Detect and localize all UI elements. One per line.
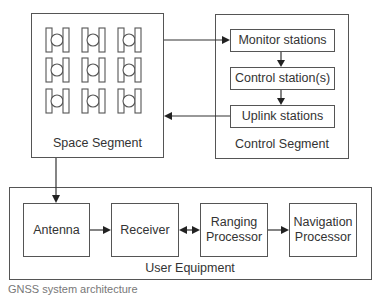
control-segment-label: Control Segment — [215, 137, 349, 151]
space-segment-label: Space Segment — [31, 136, 164, 150]
control-stations-box: Control station(s) — [230, 67, 335, 90]
receiver-box: Receiver — [111, 203, 179, 257]
monitor-stations-box: Monitor stations — [230, 29, 335, 52]
arrowhead-icon — [164, 112, 172, 120]
figure-caption: GNSS system architecture — [8, 283, 138, 295]
antenna-box: Antenna — [23, 203, 90, 257]
navigation-processor-box: Navigation Processor — [289, 203, 357, 257]
user-equipment-label: User Equipment — [130, 261, 250, 275]
uplink-stations-box: Uplink stations — [230, 105, 335, 128]
ranging-processor-box: Ranging Processor — [200, 203, 268, 257]
